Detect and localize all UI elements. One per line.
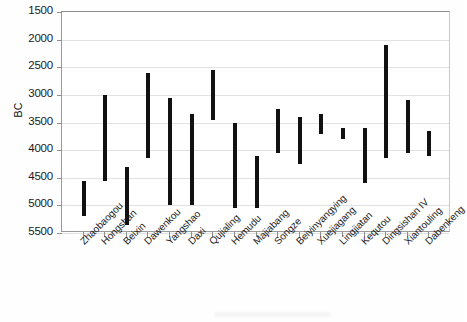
y-axis-tick bbox=[57, 150, 62, 151]
y-axis-tick-label: 2500 bbox=[28, 60, 53, 71]
y-axis-tick-label: 3500 bbox=[28, 116, 53, 127]
range-bar bbox=[298, 117, 302, 164]
range-bar bbox=[427, 131, 431, 156]
y-axis-tick bbox=[57, 67, 62, 68]
range-bar bbox=[319, 114, 323, 133]
gridline bbox=[62, 123, 449, 124]
gridline bbox=[62, 67, 449, 68]
range-bar bbox=[168, 98, 172, 206]
y-axis-tick bbox=[57, 178, 62, 179]
range-bar bbox=[211, 70, 215, 120]
range-bar bbox=[276, 109, 280, 153]
range-bar bbox=[406, 100, 410, 152]
y-axis-tick-label: 5000 bbox=[28, 198, 53, 209]
range-bar bbox=[82, 181, 86, 217]
y-axis-tick-label: 5500 bbox=[28, 226, 53, 237]
gridline bbox=[62, 95, 449, 96]
y-axis-tick-label: 4500 bbox=[28, 171, 53, 182]
y-axis-labels: 150020002500300035004000450050005500 bbox=[0, 0, 53, 221]
range-bar bbox=[103, 95, 107, 181]
y-axis-tick bbox=[57, 233, 62, 234]
gridline bbox=[62, 150, 449, 151]
plot-area bbox=[61, 11, 450, 232]
y-axis-tick bbox=[57, 40, 62, 41]
y-axis-tick-label: 1500 bbox=[28, 5, 53, 16]
y-axis-tick-label: 3000 bbox=[28, 88, 53, 99]
y-axis-tick-label: 2000 bbox=[28, 33, 53, 44]
y-axis-tick-label: 4000 bbox=[28, 143, 53, 154]
range-bar bbox=[255, 156, 259, 208]
y-axis-tick bbox=[57, 123, 62, 124]
y-axis-tick bbox=[57, 95, 62, 96]
range-bar bbox=[341, 128, 345, 139]
range-bar bbox=[233, 123, 237, 209]
gridline bbox=[62, 40, 449, 41]
range-bar bbox=[190, 114, 194, 205]
range-bar bbox=[384, 45, 388, 158]
y-axis-tick bbox=[57, 205, 62, 206]
y-axis-tick bbox=[57, 12, 62, 13]
scan-artifact-bottom bbox=[215, 312, 330, 317]
range-bar bbox=[146, 73, 150, 159]
range-bar bbox=[363, 128, 367, 183]
